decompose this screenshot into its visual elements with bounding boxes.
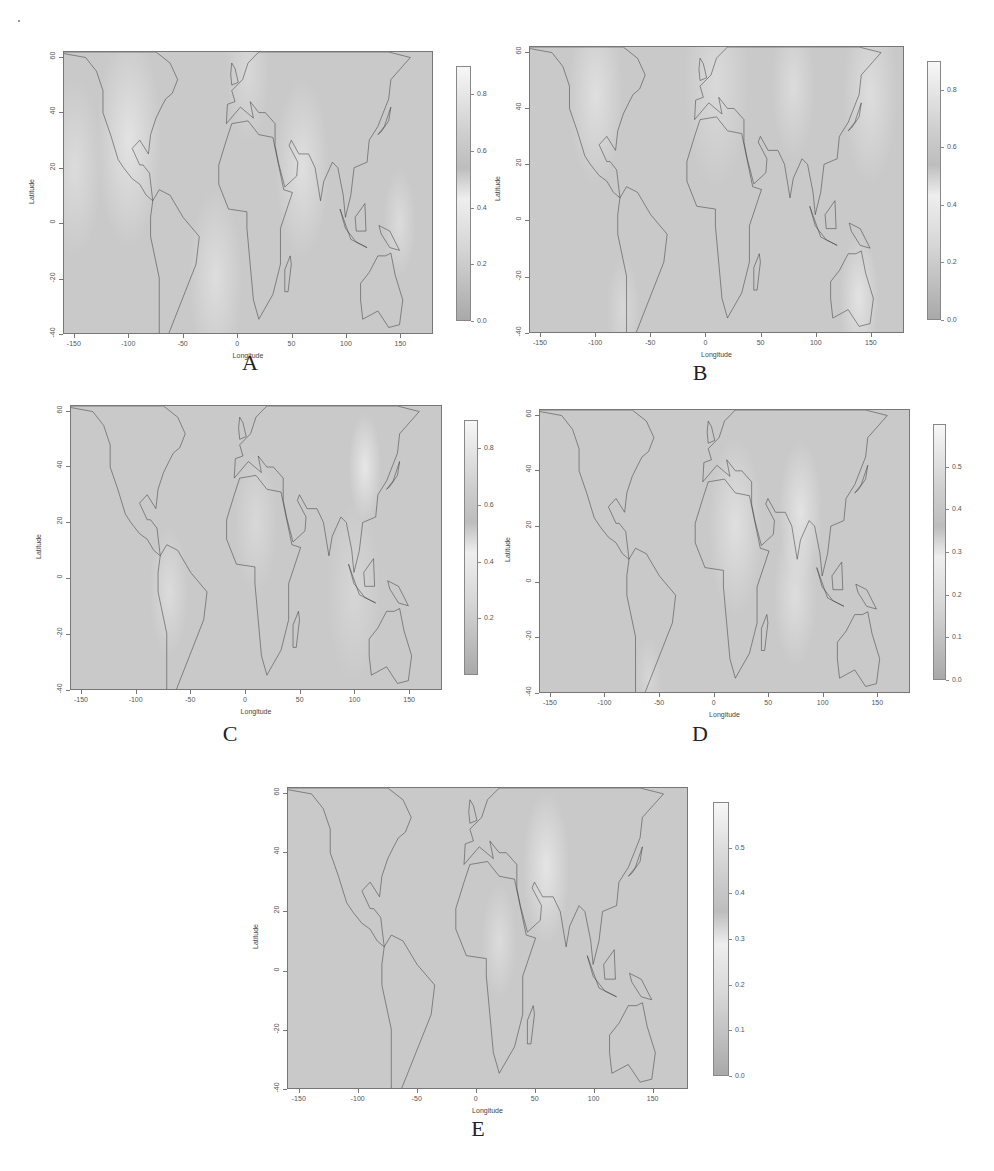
x-tick-mark	[540, 333, 541, 337]
y-tick-label: -20	[49, 267, 56, 287]
colorbar-tick-label: 0.3	[735, 935, 745, 942]
y-tick-mark	[66, 578, 70, 579]
x-tick-mark	[299, 1089, 300, 1093]
colorbar-tick-label: 0.2	[947, 258, 957, 265]
y-tick-mark	[525, 108, 529, 109]
x-tick-label: 50	[520, 1095, 550, 1102]
x-tick-label: 0	[230, 696, 260, 703]
y-tick-label: 20	[515, 153, 522, 173]
x-tick-mark	[346, 334, 347, 338]
x-tick-label: -150	[284, 1095, 314, 1102]
x-tick-mark	[245, 690, 246, 694]
x-tick-label: -100	[121, 696, 151, 703]
x-tick-label: 0	[461, 1095, 491, 1102]
colorbar	[464, 420, 478, 675]
colorbar-tick-mark	[946, 467, 949, 468]
x-tick-label: -50	[402, 1095, 432, 1102]
y-axis-label: Latitude	[504, 520, 511, 580]
heatmap-area	[539, 409, 910, 693]
x-tick-mark	[358, 1089, 359, 1093]
y-tick-label: -20	[515, 265, 522, 285]
panel-label: A	[230, 350, 270, 376]
x-tick-label: -150	[525, 339, 555, 346]
colorbar-tick-mark	[941, 205, 944, 206]
x-tick-mark	[653, 1089, 654, 1093]
y-tick-label: -40	[525, 682, 532, 702]
y-tick-label: 60	[49, 45, 56, 65]
colorbar-tick-mark	[941, 147, 944, 148]
x-tick-mark	[659, 693, 660, 697]
y-axis-label: Latitude	[35, 516, 42, 576]
colorbar-tick-label: 0.2	[952, 591, 962, 598]
y-tick-label: 60	[515, 40, 522, 60]
x-tick-mark	[400, 334, 401, 338]
y-tick-mark	[66, 690, 70, 691]
y-tick-label: 0	[56, 567, 63, 587]
x-tick-mark	[190, 690, 191, 694]
y-tick-mark	[535, 526, 539, 527]
colorbar-tick-label: 0.5	[735, 844, 745, 851]
x-tick-label: -150	[59, 340, 89, 347]
x-tick-label: -150	[66, 696, 96, 703]
x-tick-mark	[768, 693, 769, 697]
y-tick-label: 20	[273, 900, 280, 920]
x-axis-label: Longitude	[226, 708, 286, 715]
colorbar-tick-label: 0.0	[952, 676, 962, 683]
y-tick-mark	[525, 333, 529, 334]
colorbar-tick-label: 0.8	[947, 86, 957, 93]
x-tick-label: 100	[801, 339, 831, 346]
colorbar	[456, 66, 471, 321]
x-tick-mark	[761, 333, 762, 337]
x-tick-mark	[136, 690, 137, 694]
x-tick-label: 150	[862, 699, 892, 706]
x-tick-mark	[417, 1089, 418, 1093]
colorbar-tick-mark	[478, 448, 481, 449]
y-tick-mark	[283, 1030, 287, 1031]
y-axis-label: Latitude	[252, 907, 259, 967]
y-tick-mark	[283, 911, 287, 912]
colorbar-tick-mark	[471, 264, 474, 265]
x-tick-label: 100	[579, 1095, 609, 1102]
x-tick-label: -100	[589, 699, 619, 706]
colorbar	[927, 61, 941, 320]
colorbar-tick-mark	[729, 985, 732, 986]
y-tick-label: 40	[49, 101, 56, 121]
x-tick-mark	[595, 333, 596, 337]
x-tick-label: -100	[113, 340, 143, 347]
x-tick-label: 0	[699, 699, 729, 706]
heatmap-area	[529, 46, 904, 333]
x-tick-label: 100	[331, 340, 361, 347]
x-tick-mark	[877, 693, 878, 697]
y-tick-label: -20	[273, 1018, 280, 1038]
colorbar-tick-label: 0.8	[484, 444, 494, 451]
x-tick-label: -50	[168, 340, 198, 347]
colorbar-tick-mark	[478, 505, 481, 506]
y-tick-mark	[283, 852, 287, 853]
x-tick-mark	[409, 690, 410, 694]
x-tick-label: 150	[638, 1095, 668, 1102]
stray-dot	[18, 20, 20, 22]
colorbar-tick-mark	[946, 509, 949, 510]
x-tick-label: 0	[222, 340, 252, 347]
x-tick-label: -150	[535, 699, 565, 706]
y-tick-label: 20	[525, 514, 532, 534]
y-tick-mark	[535, 582, 539, 583]
x-tick-mark	[81, 690, 82, 694]
x-tick-label: -100	[343, 1095, 373, 1102]
x-tick-mark	[354, 690, 355, 694]
x-tick-mark	[183, 334, 184, 338]
colorbar-tick-label: 0.4	[477, 204, 487, 211]
y-tick-label: 0	[525, 570, 532, 590]
colorbar-tick-mark	[471, 208, 474, 209]
colorbar-tick-mark	[946, 595, 949, 596]
x-tick-label: 0	[690, 339, 720, 346]
x-tick-mark	[300, 690, 301, 694]
x-tick-mark	[535, 1089, 536, 1093]
y-tick-mark	[283, 793, 287, 794]
colorbar-tick-label: 0.1	[952, 633, 962, 640]
x-tick-mark	[823, 693, 824, 697]
colorbar-tick-mark	[729, 939, 732, 940]
x-axis-label: Longitude	[458, 1107, 518, 1114]
y-axis-label: Latitude	[28, 161, 35, 221]
x-tick-mark	[871, 333, 872, 337]
